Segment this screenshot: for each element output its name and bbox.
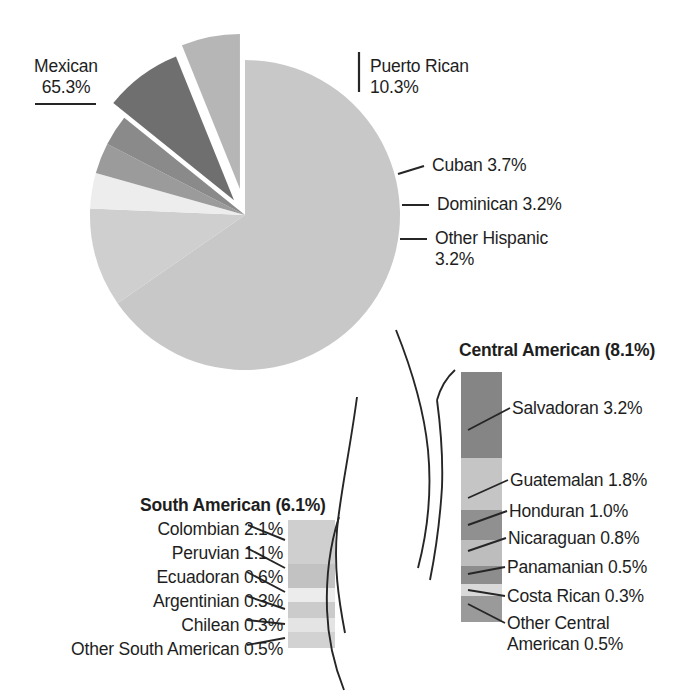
leader-cuban bbox=[398, 166, 424, 174]
label-other-central-american-line2: American 0.5% bbox=[507, 634, 623, 655]
bar-segment-colombian[interactable] bbox=[288, 520, 335, 564]
label-dominican: Dominican 3.2% bbox=[437, 194, 562, 215]
label-panamanian: Panamanian 0.5% bbox=[507, 557, 647, 578]
bar-segment-ecuadoran[interactable] bbox=[288, 588, 335, 602]
label-puerto-rican-value: 10.3% bbox=[370, 77, 469, 98]
label-other-hispanic: Other Hispanic 3.2% bbox=[435, 228, 548, 270]
wedge-to-breakout-connectors bbox=[327, 330, 455, 690]
connector-central-american-a bbox=[396, 330, 430, 568]
label-peruvian: Peruvian 1.1% bbox=[0, 543, 283, 564]
heading-south-american: South American (6.1%) bbox=[140, 495, 326, 516]
label-cuban: Cuban 3.7% bbox=[432, 155, 526, 176]
label-salvadoran: Salvadoran 3.2% bbox=[512, 398, 642, 419]
label-colombian: Colombian 2.1% bbox=[0, 519, 283, 540]
label-ecuadoran: Ecuadoran 0.6% bbox=[0, 567, 283, 588]
label-puerto-rican-name: Puerto Rican bbox=[370, 56, 469, 77]
label-puerto-rican: Puerto Rican 10.3% bbox=[370, 56, 469, 98]
label-other-central-american: Other Central American 0.5% bbox=[507, 613, 623, 655]
bar-segment-guatemalan[interactable] bbox=[461, 458, 502, 510]
bar-segment-nicaraguan[interactable] bbox=[461, 540, 502, 566]
pie-chart-figure: Mexican 65.3% Puerto Rican 10.3% Cuban 3… bbox=[0, 0, 690, 699]
heading-central-american: Central American (8.1%) bbox=[459, 340, 655, 361]
bar-segment-other-south-american[interactable] bbox=[288, 632, 335, 648]
label-honduran: Honduran 1.0% bbox=[509, 501, 628, 522]
label-other-hispanic-name: Other Hispanic bbox=[435, 228, 548, 249]
connector-south-american-a bbox=[336, 397, 357, 633]
connector-central-american-b bbox=[430, 400, 442, 580]
label-other-hispanic-value: 3.2% bbox=[435, 249, 548, 270]
label-costa-rican: Costa Rican 0.3% bbox=[507, 586, 644, 607]
label-other-south-american: Other South American 0.5% bbox=[0, 639, 283, 660]
central-american-bar[interactable] bbox=[461, 372, 502, 622]
label-chilean: Chilean 0.3% bbox=[0, 615, 283, 636]
label-mexican: Mexican 65.3% bbox=[20, 56, 112, 98]
connector-central-american-c bbox=[437, 370, 455, 400]
label-mexican-name: Mexican bbox=[20, 56, 112, 77]
pie-slices bbox=[90, 34, 400, 370]
label-argentinian: Argentinian 0.3% bbox=[0, 591, 283, 612]
label-guatemalan: Guatemalan 1.8% bbox=[510, 470, 647, 491]
label-nicaraguan: Nicaraguan 0.8% bbox=[508, 528, 639, 549]
label-mexican-value: 65.3% bbox=[20, 77, 112, 98]
label-other-central-american-line1: Other Central bbox=[507, 613, 623, 634]
